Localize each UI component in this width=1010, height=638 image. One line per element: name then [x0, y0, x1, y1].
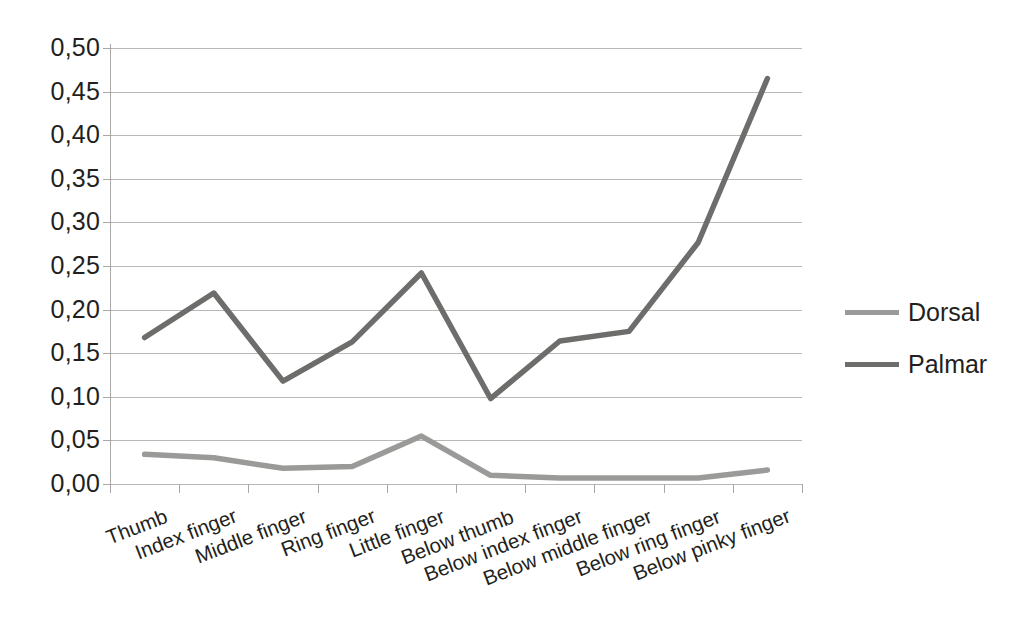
- legend-line-swatch: [845, 310, 899, 315]
- x-axis-tick-mark: [525, 484, 526, 493]
- y-axis-tick-label: 0,40: [14, 122, 100, 147]
- y-axis-tick-mark: [103, 310, 112, 311]
- y-axis-tick-mark: [103, 440, 112, 441]
- y-axis-tick-label: 0,15: [14, 340, 100, 365]
- x-axis-tick-mark: [248, 484, 249, 493]
- y-axis-tick-label: 0,05: [14, 427, 100, 452]
- y-axis-tick-label: 0,30: [14, 209, 100, 234]
- y-axis-tick-label: 0,50: [14, 35, 100, 60]
- y-axis-tick-mark: [103, 92, 112, 93]
- y-axis-tick-label: 0,45: [14, 79, 100, 104]
- series-line-dorsal: [145, 436, 768, 478]
- x-axis-tick-mark: [456, 484, 457, 493]
- y-axis-tick-label: 0,35: [14, 166, 100, 191]
- legend-label: Palmar: [908, 352, 987, 377]
- series-line-palmar: [145, 79, 768, 399]
- y-axis-tick-label: 0,10: [14, 384, 100, 409]
- legend-line-swatch: [845, 362, 899, 367]
- x-axis-tick-mark: [733, 484, 734, 493]
- y-axis-tick-label: 0,20: [14, 297, 100, 322]
- y-axis-tick-labels: 0,000,050,100,150,200,250,300,350,400,45…: [0, 0, 100, 638]
- x-axis-tick-mark: [387, 484, 388, 493]
- y-axis-tick-mark: [103, 179, 112, 180]
- x-axis-tick-mark: [318, 484, 319, 493]
- x-axis-tick-mark: [179, 484, 180, 493]
- legend-item-dorsal[interactable]: Dorsal: [845, 286, 1005, 338]
- y-axis-tick-mark: [103, 353, 112, 354]
- series-layer: [110, 48, 802, 484]
- chart-legend: DorsalPalmar: [845, 286, 1005, 390]
- x-axis-tick-mark: [110, 484, 111, 493]
- y-axis-tick-mark: [103, 222, 112, 223]
- x-axis-tick-mark: [664, 484, 665, 493]
- legend-item-palmar[interactable]: Palmar: [845, 338, 1005, 390]
- plot-area: [110, 48, 802, 484]
- x-axis-tick-mark: [802, 484, 803, 493]
- line-chart: 0,000,050,100,150,200,250,300,350,400,45…: [0, 0, 1010, 638]
- y-axis-tick-label: 0,25: [14, 253, 100, 278]
- y-axis-tick-mark: [103, 397, 112, 398]
- legend-label: Dorsal: [908, 300, 980, 325]
- y-axis-tick-mark: [103, 48, 112, 49]
- x-axis-tick-mark: [594, 484, 595, 493]
- y-axis-tick-mark: [103, 135, 112, 136]
- y-axis-tick-mark: [103, 266, 112, 267]
- y-axis-tick-label: 0,00: [14, 471, 100, 496]
